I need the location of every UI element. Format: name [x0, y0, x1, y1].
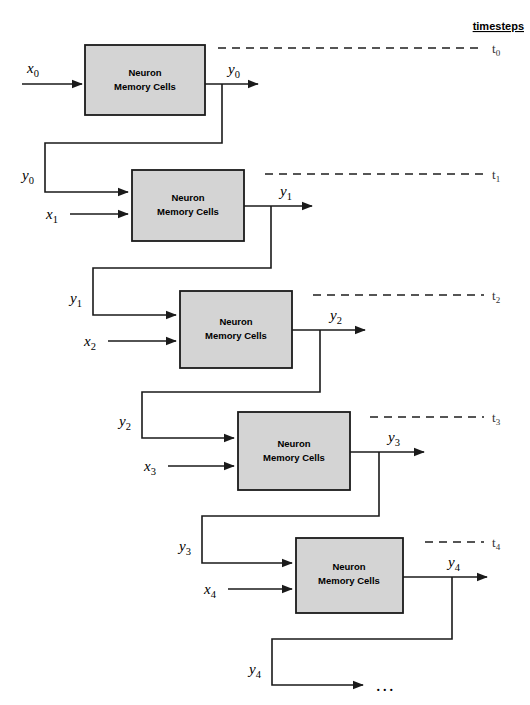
neuron-memory-block-0: [85, 45, 205, 115]
block-label-line1-0: Neuron: [128, 67, 161, 78]
input-label-x1: x1: [45, 206, 58, 225]
stage-4: y3 x4 Neuron Memory Cells y4: [177, 538, 487, 685]
unfolded-recurrent-network-diagram: timesteps t0 t1 t2 t3 t4 x0 Neuron Memor…: [0, 0, 530, 705]
continuation-ellipsis: ...: [376, 675, 396, 695]
timestep-label-t2: t2: [492, 288, 500, 305]
output-label-y4: y4: [446, 554, 461, 573]
block-label-line2-0: Memory Cells: [114, 81, 176, 92]
timestep-label-t4: t4: [492, 535, 501, 552]
timestep-label-t3: t3: [492, 410, 501, 427]
block-label-line2-4: Memory Cells: [318, 575, 380, 586]
recurrent-label-y0-in: y0: [20, 167, 34, 186]
block-label-line1-2: Neuron: [219, 316, 252, 327]
block-label-line2-2: Memory Cells: [205, 330, 267, 341]
recurrent-label-y4-out: y4: [247, 661, 262, 680]
input-label-x3: x3: [143, 458, 156, 477]
block-label-line1-4: Neuron: [332, 561, 365, 572]
input-label-x2: x2: [83, 333, 96, 352]
input-label-x0: x0: [26, 60, 39, 79]
input-label-x4: x4: [203, 581, 217, 600]
timestep-label-t0: t0: [492, 41, 501, 58]
block-label-line1-1: Neuron: [171, 192, 204, 203]
timesteps-legend-title: timesteps: [473, 20, 524, 32]
neuron-memory-block-3: [238, 412, 350, 490]
recurrent-label-y2-in: y2: [117, 413, 131, 432]
recurrent-label-y1-in: y1: [68, 290, 82, 309]
output-label-y1: y1: [278, 183, 292, 202]
block-label-line2-3: Memory Cells: [263, 452, 325, 463]
output-label-y2: y2: [328, 307, 342, 326]
output-label-y0: y0: [226, 61, 240, 80]
output-label-y3: y3: [386, 429, 400, 448]
recurrent-label-y3-in: y3: [177, 538, 191, 557]
timestep-label-t1: t1: [492, 167, 500, 184]
block-label-line2-1: Memory Cells: [157, 206, 219, 217]
block-label-line1-3: Neuron: [277, 438, 310, 449]
